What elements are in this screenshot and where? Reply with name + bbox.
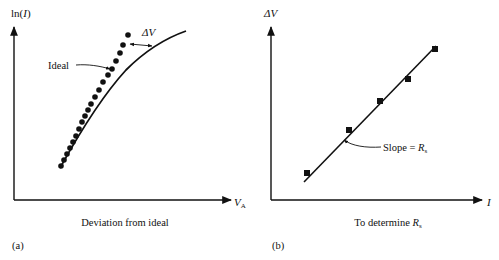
data-point [92,94,98,100]
data-point [70,139,76,145]
data-point [67,145,73,151]
panel-a: ln(I) VA Ideal ΔV Deviation from ideal (… [11,7,246,252]
ideal-leader-line [76,65,110,69]
ideal-label: Ideal [48,60,69,71]
x-axis-label: VA [234,196,246,210]
data-point [58,163,64,169]
panel-tag-b: (b) [272,240,285,252]
data-point [405,76,411,82]
data-point [96,87,102,93]
data-point [120,42,126,48]
data-point [432,46,438,52]
caption-b: To determine Rs [354,217,422,230]
ideal-curve [60,31,186,168]
data-point [117,50,123,56]
data-point [76,126,82,132]
x-axis-label: I [486,196,492,208]
figure-canvas: ln(I) VA Ideal ΔV Deviation from ideal (… [0,0,499,260]
data-point [79,119,85,125]
data-point [304,170,310,176]
data-point [82,113,88,119]
data-point [377,98,383,104]
panel-b: ΔV I Slope = Rs To determine Rs (b) [263,7,492,252]
y-axis-label: ΔV [263,7,278,19]
data-point [105,72,111,78]
data-point [73,133,79,139]
caption-a: Deviation from ideal [81,217,169,228]
data-point [88,101,94,107]
data-point [346,127,352,133]
delta-v-arrow [130,44,152,46]
panel-tag-a: (a) [12,240,24,252]
data-point [109,66,115,72]
data-point [113,58,119,64]
data-point [85,107,91,113]
slope-label: Slope = Rs [383,142,428,155]
data-point [64,151,70,157]
measured-points [58,32,131,169]
data-point [125,32,131,38]
data-point [61,157,67,163]
fit-line [304,46,436,182]
delta-v-label: ΔV [141,26,156,38]
y-axis-label: ln(I) [11,7,31,20]
data-point [100,79,106,85]
slope-leader-line [344,140,381,147]
